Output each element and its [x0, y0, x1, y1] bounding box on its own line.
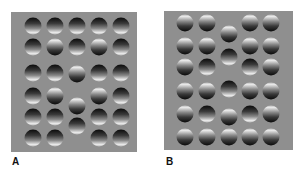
convex-bump-b-23 [263, 106, 280, 123]
concave-dimple-a-3 [91, 18, 108, 35]
concave-dimple-b-7 [221, 49, 238, 66]
convex-bump-a-18 [91, 88, 108, 105]
convex-bump-b-21 [221, 109, 238, 126]
concave-dimple-a-25 [25, 130, 42, 147]
panel-b-label: B [166, 156, 173, 167]
concave-dimple-b-20 [199, 106, 216, 123]
convex-bump-b-5 [177, 38, 194, 55]
concave-dimple-a-22 [69, 118, 86, 135]
convex-bump-b-24 [177, 129, 194, 146]
convex-bump-a-17 [69, 98, 86, 115]
concave-dimple-a-10 [25, 65, 42, 82]
convex-bump-b-4 [263, 15, 280, 32]
convex-bump-b-14 [177, 83, 194, 100]
concave-dimple-a-13 [91, 65, 108, 82]
concave-dimple-a-5 [25, 39, 42, 56]
concave-dimple-a-1 [47, 18, 64, 35]
concave-dimple-a-14 [113, 65, 130, 82]
convex-bump-b-15 [199, 83, 216, 100]
concave-dimple-b-16 [221, 81, 238, 98]
concave-dimple-b-22 [242, 106, 259, 123]
concave-dimple-a-27 [91, 130, 108, 147]
convex-bump-b-0 [177, 15, 194, 32]
convex-bump-b-1 [199, 15, 216, 32]
concave-dimple-a-0 [25, 18, 42, 35]
concave-dimple-a-23 [91, 109, 108, 126]
convex-bump-b-9 [263, 38, 280, 55]
convex-bump-b-27 [242, 129, 259, 146]
concave-dimple-a-7 [69, 39, 86, 56]
concave-dimple-a-4 [113, 18, 130, 35]
concave-dimple-a-26 [47, 130, 64, 147]
concave-dimple-a-11 [47, 65, 64, 82]
convex-bump-b-19 [177, 106, 194, 123]
convex-bump-b-13 [263, 59, 280, 76]
panel-a-label: A [12, 156, 19, 167]
convex-bump-b-8 [242, 38, 259, 55]
convex-bump-b-6 [199, 38, 216, 55]
convex-bump-a-6 [47, 39, 64, 56]
concave-dimple-a-20 [25, 109, 42, 126]
concave-dimple-a-21 [47, 109, 64, 126]
convex-bump-b-18 [263, 83, 280, 100]
concave-dimple-a-15 [25, 88, 42, 105]
concave-dimple-b-11 [199, 59, 216, 76]
concave-dimple-a-24 [113, 109, 130, 126]
convex-bump-b-28 [263, 129, 280, 146]
convex-bump-b-25 [199, 129, 216, 146]
concave-dimple-b-12 [242, 59, 259, 76]
convex-bump-a-16 [47, 88, 64, 105]
concave-dimple-a-28 [113, 130, 130, 147]
convex-bump-b-17 [242, 83, 259, 100]
concave-dimple-a-2 [69, 18, 86, 35]
convex-bump-a-12 [69, 66, 86, 83]
concave-dimple-a-19 [113, 88, 130, 105]
concave-dimple-a-9 [113, 39, 130, 56]
convex-bump-b-2 [221, 26, 238, 43]
convex-bump-a-8 [91, 39, 108, 56]
convex-bump-b-3 [242, 15, 259, 32]
convex-bump-b-26 [221, 129, 238, 146]
convex-bump-b-10 [177, 59, 194, 76]
